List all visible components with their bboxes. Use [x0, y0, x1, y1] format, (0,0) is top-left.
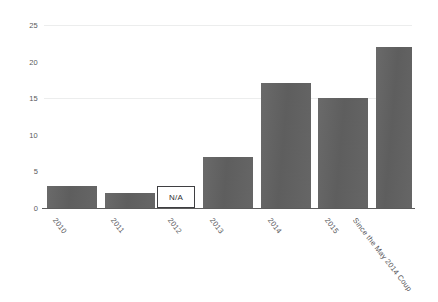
- x-tick-since-may-2014-coup: Since the May 2014 Coup: [351, 216, 414, 293]
- x-tick-2012: 2012: [166, 216, 184, 235]
- x-axis: 2010 2011 2012 2013 2014 2015 Since the …: [0, 0, 438, 302]
- bar-chart: 25 20 15 10 5 0 N/A 2010 2011 2012 2013 …: [0, 0, 438, 302]
- x-tick-2010: 2010: [51, 216, 69, 235]
- x-tick-2011: 2011: [109, 216, 127, 235]
- x-tick-2013: 2013: [208, 216, 226, 235]
- x-tick-2014: 2014: [266, 216, 284, 235]
- x-tick-2015: 2015: [323, 216, 341, 235]
